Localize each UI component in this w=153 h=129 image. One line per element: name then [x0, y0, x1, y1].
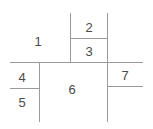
region-partition-diagram: 1234567 [0, 0, 153, 129]
diagram-line-layer [0, 0, 153, 129]
region-7-label: 7 [121, 69, 128, 82]
region-1-label: 1 [34, 35, 41, 48]
region-2-label: 2 [85, 21, 92, 34]
region-4-label: 4 [18, 71, 25, 84]
region-3-label: 3 [85, 45, 92, 58]
region-6-label: 6 [68, 83, 75, 96]
region-5-label: 5 [18, 96, 25, 109]
